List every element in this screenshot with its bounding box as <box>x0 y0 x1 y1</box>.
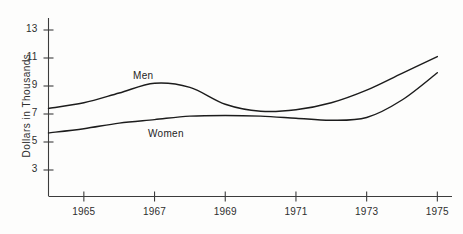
axes-group <box>49 18 453 197</box>
y-tick-label: 3 <box>16 163 38 174</box>
x-tick-label: 1975 <box>417 206 457 217</box>
series-line-women <box>49 73 438 133</box>
series-label-men: Men <box>133 70 153 81</box>
x-tick-label: 1967 <box>135 206 175 217</box>
y-tick-label: 13 <box>16 23 38 34</box>
x-tick-label: 1969 <box>205 206 245 217</box>
y-tick-label: 5 <box>16 135 38 146</box>
series-label-women: Women <box>148 128 184 139</box>
x-tick-label: 1965 <box>64 206 104 217</box>
line-chart: Dollars in Thousands 35791113 1965196719… <box>0 0 463 234</box>
y-tick-label: 9 <box>16 79 38 90</box>
x-tick-label: 1973 <box>347 206 387 217</box>
y-tick-label: 7 <box>16 107 38 118</box>
x-tick-label: 1971 <box>276 206 316 217</box>
chart-plot-area <box>0 0 463 234</box>
y-tick-label: 11 <box>16 51 38 62</box>
series-line-men <box>49 57 438 112</box>
